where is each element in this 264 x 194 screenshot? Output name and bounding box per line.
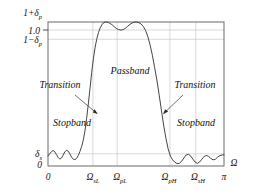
ytick-label-delta-s: δs <box>35 149 42 161</box>
x-tick-labels: 0 ΩsL ΩpL ΩpH ΩsH π <box>46 172 227 184</box>
x-axis-label: Ω <box>231 158 238 168</box>
ytick-label-one: 1.0 <box>28 26 40 36</box>
xtick-label-OmpL: ΩpL <box>113 172 127 184</box>
annotation-transition-right: Transition <box>174 79 215 90</box>
frame-rect <box>48 22 224 166</box>
chart-svg: 1+δp 1.0 1−δp δs 0 0 ΩsL ΩpL ΩpH <box>0 0 264 194</box>
arrow-head-transition-left <box>93 109 98 114</box>
annotation-stopband-left: Stopband <box>53 117 92 128</box>
ytick-label-one-plus-dp: 1+δp <box>23 8 43 20</box>
annotation-stopband-right: Stopband <box>177 117 216 128</box>
filter-response-figure: 1+δp 1.0 1−δp δs 0 0 ΩsL ΩpL ΩpH <box>0 0 264 194</box>
magnitude-response-line <box>48 22 224 164</box>
arrow-line-transition-right <box>164 95 183 113</box>
ytick-label-one-minus-dp: 1−δp <box>23 35 43 47</box>
xtick-label-OmpH: ΩpH <box>162 172 177 184</box>
response-curve <box>48 22 224 164</box>
arrow-line-transition-left <box>75 95 97 113</box>
plot-frame <box>48 22 224 166</box>
annotation-transition-left: Transition <box>39 79 80 90</box>
annotation-passband: Passband <box>110 65 151 76</box>
ytick-label-zero: 0 <box>37 160 42 170</box>
plot-annotations: Transition Passband Transition Stopband … <box>39 65 215 128</box>
xtick-label-pi: π <box>222 172 227 182</box>
xtick-label-zero: 0 <box>46 172 51 182</box>
xtick-label-OmsH: ΩsH <box>191 172 205 184</box>
annotation-arrows <box>75 95 183 114</box>
grid-lines <box>48 22 224 166</box>
xtick-label-OmsL: ΩsL <box>86 172 99 184</box>
